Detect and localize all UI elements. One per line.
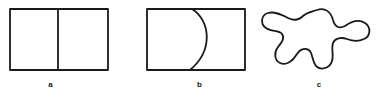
figure-c: c (255, 0, 377, 95)
rectangle-outline-b (147, 9, 245, 70)
irregular-blob-outline (262, 9, 369, 68)
figure-panel: a b c (0, 0, 377, 95)
figure-b: b (130, 0, 255, 95)
figure-c-caption: c (258, 80, 377, 90)
figure-a-drawing (0, 0, 125, 78)
figure-a: a (0, 0, 125, 95)
figure-b-caption: b (137, 80, 262, 90)
figure-a-caption: a (0, 80, 113, 90)
figure-b-drawing (130, 0, 255, 78)
figure-c-drawing (255, 0, 377, 78)
bulging-arc-divider (190, 9, 207, 70)
rectangle-outline-a (10, 9, 108, 70)
